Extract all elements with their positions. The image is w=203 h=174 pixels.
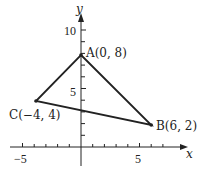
- point-b-label: B(6, 2): [156, 119, 197, 133]
- point-a-label: A(0, 8): [85, 46, 127, 60]
- y-tick-label-5: 5: [70, 85, 76, 99]
- y-axis-label: y: [75, 2, 83, 16]
- x-ticks: [23, 143, 163, 147]
- x-tick-label-5: 5: [135, 152, 141, 166]
- x-axis-label: x: [186, 147, 193, 161]
- coordinate-plot: −5 5 5 10 x y A(0, 8) B(6, 2) C(−4, 4): [0, 0, 203, 174]
- point-a: [79, 53, 83, 57]
- y-tick-label-10: 10: [64, 24, 76, 38]
- point-c: [34, 99, 38, 103]
- x-tick-label-neg5: −5: [14, 152, 27, 166]
- point-c-label: C(−4, 4): [9, 108, 61, 122]
- point-b: [149, 123, 153, 127]
